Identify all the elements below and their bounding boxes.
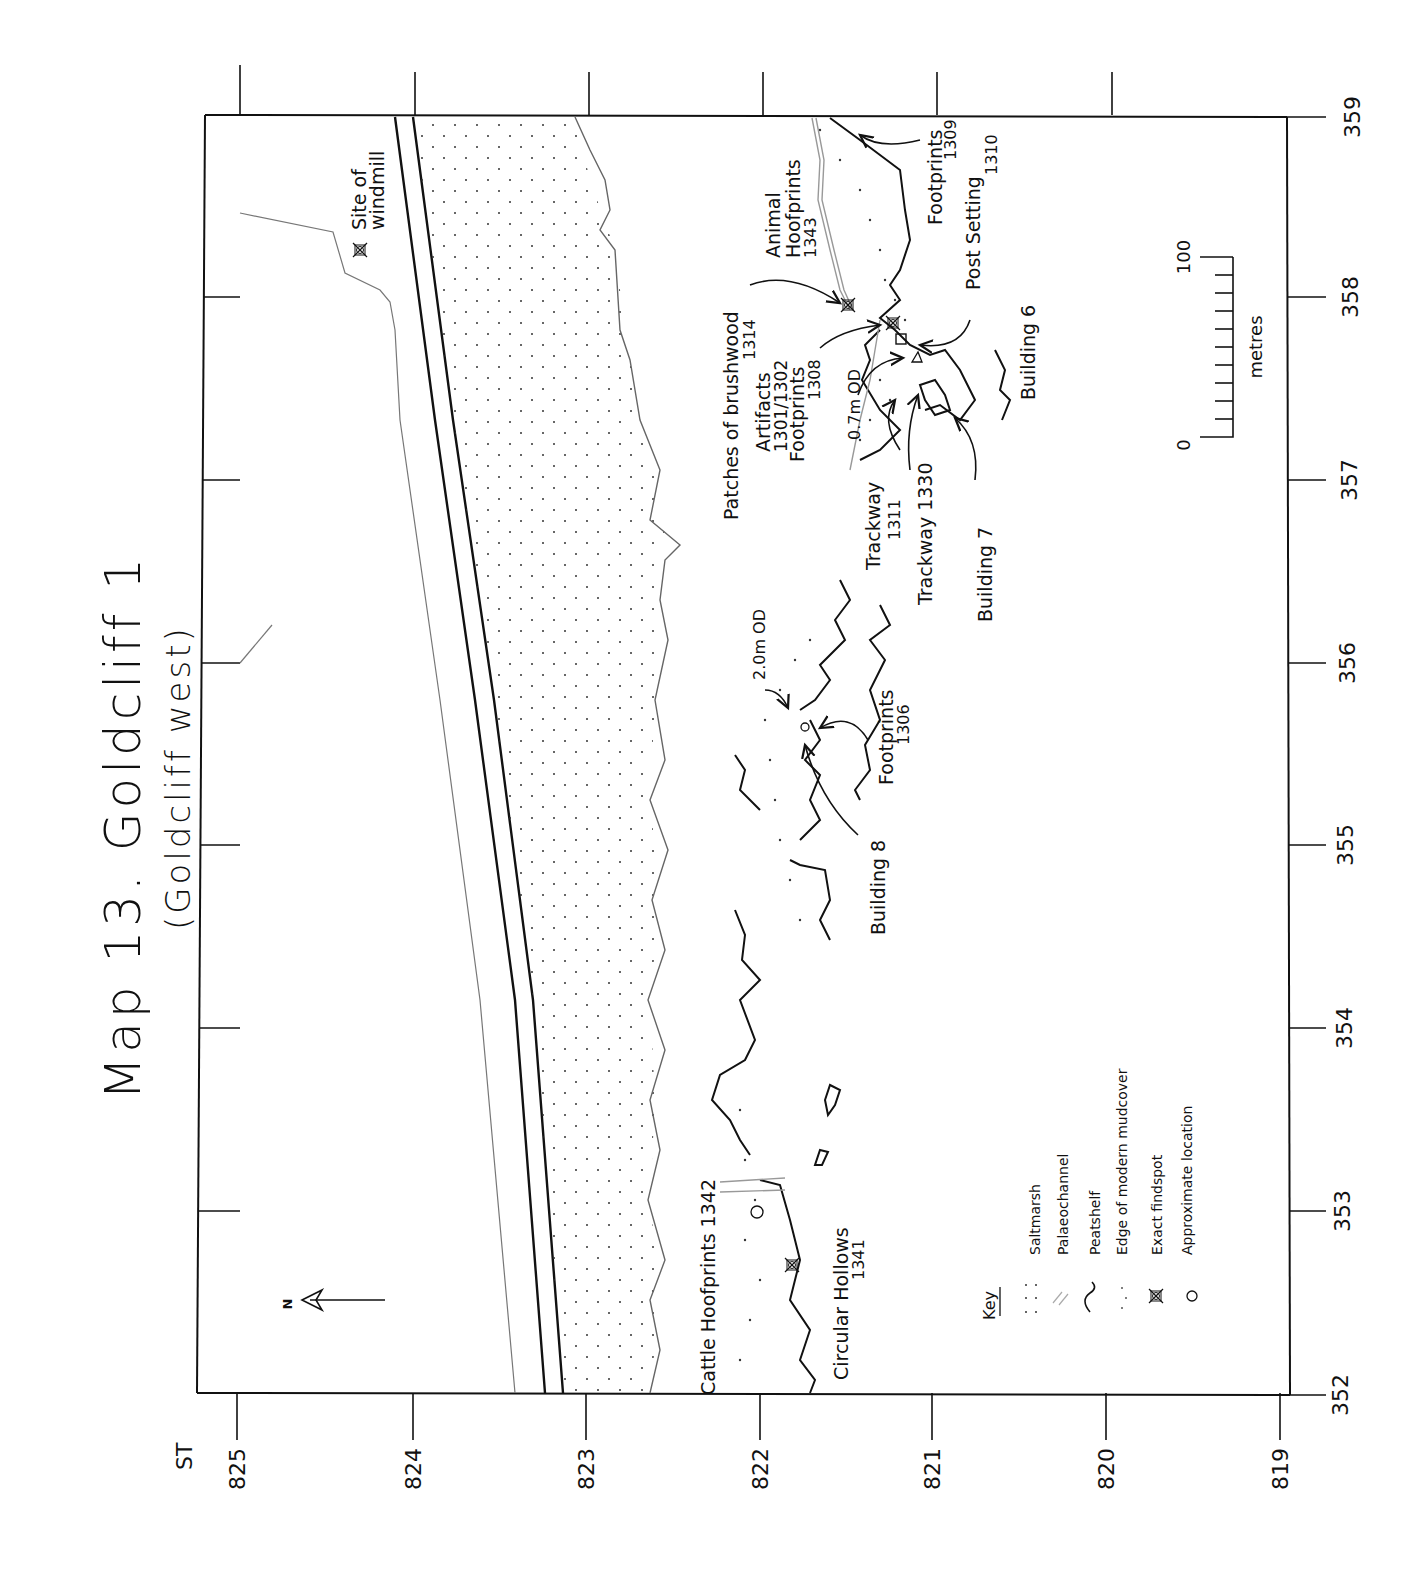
- scale-start: 0: [1173, 439, 1194, 450]
- key-label-approximate-location: Approximate location: [1179, 1106, 1195, 1255]
- palaeochannels: [720, 118, 880, 1192]
- map-canvas: Map 13. Goldcliff 1 (Goldcliff west) N S…: [0, 0, 1418, 1571]
- saltmarsh-symbol-icon: [1025, 1284, 1037, 1313]
- artifacts-triangle-icon: [912, 352, 922, 362]
- label-1311: 1311: [885, 499, 904, 540]
- key-label-palaeochannel: Palaeochannel: [1055, 1154, 1071, 1255]
- hoofprints-1343-findspot-icon: [841, 298, 855, 312]
- label-animal: Animal: [762, 192, 784, 258]
- label-1314: 1314: [740, 319, 759, 360]
- northing-820: 820: [1094, 1448, 1119, 1490]
- label-building-8: Building 8: [867, 840, 889, 935]
- peatshelf-outlines: [712, 118, 1010, 1393]
- palaeochannel-symbol-icon: [1053, 1292, 1068, 1305]
- map-title-group: Map 13. Goldcliff 1: [94, 554, 152, 1100]
- field-boundary: [240, 625, 272, 663]
- label-1343: 1343: [801, 217, 820, 258]
- label-building-6: Building 6: [1017, 305, 1039, 400]
- easting-354: 354: [1332, 1007, 1357, 1049]
- scale-end: 100: [1173, 240, 1194, 274]
- north-arrow: N: [280, 1290, 385, 1310]
- label-2-0m-od: 2.0m OD: [750, 609, 769, 680]
- label-0-7m-od: 0.7m OD: [845, 369, 864, 440]
- northing-labels: ST 825 824 823 822 821 820 819: [172, 1442, 1293, 1490]
- label-post-setting: Post Setting: [962, 176, 984, 290]
- saltmarsh-area: [413, 117, 665, 1393]
- easting-356: 356: [1335, 642, 1360, 684]
- windmill-findspot-icon: [353, 243, 367, 257]
- key-label-saltmarsh: Saltmarsh: [1027, 1184, 1043, 1255]
- mudcover-symbol-icon: [1121, 1287, 1127, 1309]
- grid-prefix: ST: [172, 1442, 197, 1470]
- northing-825: 825: [225, 1448, 250, 1490]
- easting-355: 355: [1333, 824, 1358, 866]
- label-1341: 1341: [849, 1239, 868, 1280]
- brushwood-findspot-icon: [886, 316, 900, 330]
- label-1306: 1306: [894, 704, 913, 745]
- easting-353: 353: [1330, 1190, 1355, 1232]
- easting-359: 359: [1340, 96, 1365, 138]
- northing-823: 823: [574, 1448, 599, 1490]
- scale-bar: [1200, 257, 1233, 437]
- easting-357: 357: [1337, 459, 1362, 501]
- easting-labels: 359 358 357 356 355 354 353 352: [1328, 96, 1365, 1416]
- northing-824: 824: [401, 1448, 426, 1490]
- peatshelf-symbol-icon: [1085, 1282, 1095, 1312]
- exact-findspot-symbol-icon: [1149, 1289, 1163, 1303]
- label-1308: 1308: [805, 359, 824, 400]
- circular-hollows-findspot-icon: [785, 1258, 799, 1272]
- map-title: Map 13. Goldcliff 1: [94, 554, 152, 1100]
- northing-819: 819: [1268, 1448, 1293, 1490]
- key-title: Key: [980, 1291, 999, 1320]
- key-label-mudcover: Edge of modern mudcover: [1114, 1068, 1130, 1255]
- northing-822: 822: [748, 1448, 773, 1490]
- building8-icon: [801, 723, 809, 731]
- label-1310: 1310: [982, 134, 1001, 175]
- north-label: N: [280, 1299, 295, 1310]
- label-windmill: windmill: [366, 151, 388, 230]
- easting-358: 358: [1338, 276, 1363, 318]
- label-trackway-1311: Trackway: [862, 482, 884, 571]
- key-label-exact-findspot: Exact findspot: [1149, 1154, 1165, 1255]
- label-building-7: Building 7: [974, 527, 996, 622]
- label-1309: 1309: [941, 119, 960, 160]
- label-patches-of-brushwood: Patches of brushwood: [720, 311, 742, 520]
- cattle-hoofprints-approx-icon: [751, 1206, 763, 1218]
- label-trackway-1330: Trackway 1330: [914, 462, 936, 606]
- approx-location-symbol-icon: [1187, 1291, 1197, 1301]
- easting-352: 352: [1328, 1374, 1353, 1416]
- northing-821: 821: [920, 1448, 945, 1490]
- label-cattle-hoofprints: Cattle Hoofprints 1342: [697, 1179, 719, 1395]
- scale-unit: metres: [1245, 315, 1266, 378]
- map-subtitle: (Goldcliff west): [158, 625, 198, 930]
- key-label-peatshelf: Peatshelf: [1087, 1190, 1103, 1255]
- map-key: Key Saltmarsh Palaeochannel Peatshelf Ed…: [980, 1068, 1197, 1320]
